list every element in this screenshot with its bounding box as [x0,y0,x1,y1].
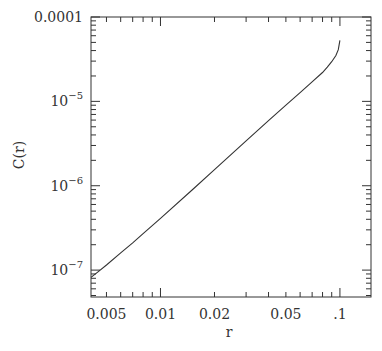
y-tick-label: 10−5 [50,90,83,109]
x-axis-label: r [226,324,233,340]
data-curve [91,40,340,277]
x-axis-tick-labels: 0.0050.010.020.05.1 [86,306,346,322]
chart-plot: 0.0050.010.020.05.1 10−710−610−50.0001 r… [0,0,382,351]
x-tick-label: 0.02 [199,306,230,322]
y-tick-label: 0.0001 [34,9,83,25]
y-tick-label: 10−6 [50,175,83,194]
y-axis-tick-labels: 10−710−610−50.0001 [34,9,83,278]
x-tick-label: 0.005 [86,306,126,322]
plot-frame [91,17,371,297]
y-axis-ticks [91,17,371,296]
y-tick-label: 10−7 [50,259,83,278]
x-tick-label: .1 [333,306,346,322]
y-axis-label: C(r) [11,141,27,169]
x-axis-ticks [106,17,339,297]
x-tick-label: 0.05 [270,306,301,322]
x-tick-label: 0.01 [145,306,176,322]
